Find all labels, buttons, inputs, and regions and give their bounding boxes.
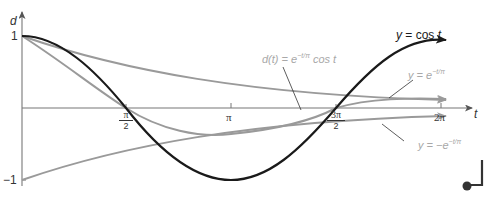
tick-label-pi-half-num: π: [119, 110, 133, 121]
cos-label-rest: = cos: [402, 28, 438, 42]
tick-label-3pi-half-den: 2: [327, 121, 345, 131]
upper-label-exp: −t/π: [432, 68, 445, 75]
corner-return-icon: [470, 160, 482, 185]
lower-envelope-label: y = −e−t/π: [418, 138, 461, 151]
y-axis-label: d: [10, 14, 17, 28]
tick-label-pi: π: [226, 111, 232, 123]
cos-curve-label: y = cos t: [396, 28, 441, 42]
damped-cosine-curve: [22, 36, 446, 135]
tick-label-pi-half-den: 2: [119, 121, 133, 131]
damped-curve-label: d(t) = e−t/π cos t: [262, 52, 336, 65]
tick-label-pi-half: π 2: [119, 110, 133, 131]
x-axis-label: t: [474, 107, 477, 121]
lower-label-exp: −t/π: [449, 138, 462, 145]
tick-label-2pi: 2π: [434, 111, 445, 123]
upper-label-main: y = e: [408, 69, 432, 81]
upper-envelope-curve: [22, 36, 446, 100]
corner-dot-icon: [463, 182, 472, 191]
y-tick-one-label: 1: [11, 29, 18, 43]
damped-label-exp: −t/π: [297, 52, 310, 59]
tick-label-3pi-half-num: 3π: [327, 110, 345, 121]
lower-envelope-curve: [22, 116, 446, 180]
lower-label-leader: [382, 124, 404, 141]
upper-envelope-label: y = e−t/π: [408, 68, 445, 81]
cos-label-t: t: [438, 28, 441, 42]
tick-label-3pi-half: 3π 2: [327, 110, 345, 131]
damped-label-tail: cos t: [310, 53, 336, 65]
damped-label-main: d(t) = e: [262, 53, 297, 65]
y-tick-neg-one-label: −1: [3, 173, 17, 187]
damped-label-leader: [283, 67, 301, 110]
upper-label-leader: [389, 80, 413, 98]
lower-label-main: y = −e: [418, 139, 449, 151]
